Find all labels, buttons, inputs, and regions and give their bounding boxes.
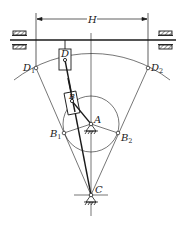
label-b2: B2	[120, 132, 133, 145]
label-b1: B1	[49, 128, 62, 141]
point-b1	[62, 131, 66, 135]
dimension-label-h: H	[87, 14, 97, 25]
label-c: C	[95, 184, 103, 195]
label-d2: D2	[150, 62, 163, 75]
label-b: B	[68, 92, 75, 101]
point-b2	[116, 131, 120, 135]
point-d2	[146, 66, 150, 70]
line-a-b2	[91, 124, 118, 133]
label-d: D	[60, 48, 69, 59]
mechanism-diagram: H	[0, 0, 186, 227]
label-a: A	[93, 114, 101, 125]
